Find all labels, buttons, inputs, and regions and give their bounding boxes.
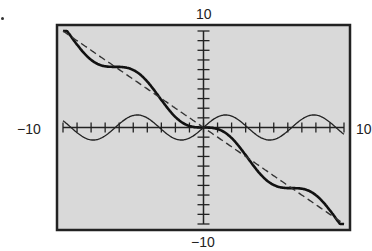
plot-area <box>0 0 370 251</box>
